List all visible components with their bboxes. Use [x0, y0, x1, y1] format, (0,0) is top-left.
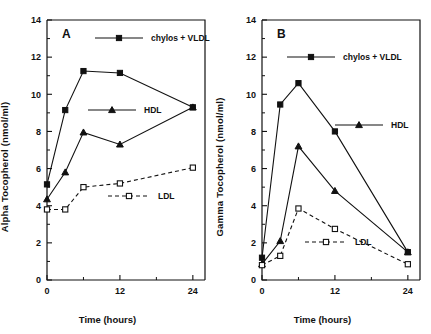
- svg-text:6: 6: [251, 164, 256, 174]
- panel-tag-b: B: [277, 27, 286, 41]
- svg-text:0: 0: [44, 286, 49, 296]
- svg-text:8: 8: [251, 127, 256, 137]
- svg-text:2: 2: [251, 238, 256, 248]
- svg-text:6: 6: [36, 164, 41, 174]
- svg-text:12: 12: [115, 286, 125, 296]
- panel-b: Gamma Tocopherol (nmol/ml) 0246810121401…: [215, 0, 430, 334]
- panel-a: Alpha Tocopherol (nmol/ml) 0246810121401…: [0, 0, 215, 334]
- svg-text:LDL: LDL: [158, 191, 175, 201]
- svg-text:0: 0: [259, 286, 264, 296]
- svg-text:LDL: LDL: [355, 237, 372, 247]
- svg-text:HDL: HDL: [391, 120, 408, 130]
- svg-text:14: 14: [246, 15, 256, 25]
- svg-text:4: 4: [251, 201, 256, 211]
- svg-text:8: 8: [36, 127, 41, 137]
- svg-text:24: 24: [188, 286, 198, 296]
- svg-text:chylos + VLDL: chylos + VLDL: [343, 52, 402, 62]
- panel-a-plot: 0246810121401224chylos + VLDLHDLLDL: [0, 0, 215, 334]
- svg-text:0: 0: [36, 275, 41, 285]
- panel-b-plot: 0246810121401224chylos + VLDLHDLLDL: [215, 0, 430, 334]
- svg-text:2: 2: [36, 238, 41, 248]
- svg-text:HDL: HDL: [144, 105, 161, 115]
- svg-text:10: 10: [246, 90, 256, 100]
- panel-b-x-axis-label: Time (hours): [215, 314, 430, 325]
- figure-two-panel-tocopherol: Alpha Tocopherol (nmol/ml) 0246810121401…: [0, 0, 431, 334]
- svg-text:0: 0: [251, 275, 256, 285]
- svg-text:12: 12: [31, 52, 41, 62]
- svg-text:10: 10: [31, 90, 41, 100]
- svg-text:chylos + VLDL: chylos + VLDL: [151, 33, 210, 43]
- svg-text:12: 12: [330, 286, 340, 296]
- panel-a-x-axis-label: Time (hours): [0, 314, 215, 325]
- svg-text:4: 4: [36, 201, 41, 211]
- svg-text:12: 12: [246, 52, 256, 62]
- svg-text:14: 14: [31, 15, 41, 25]
- panel-tag-a: A: [62, 27, 71, 41]
- svg-text:24: 24: [403, 286, 413, 296]
